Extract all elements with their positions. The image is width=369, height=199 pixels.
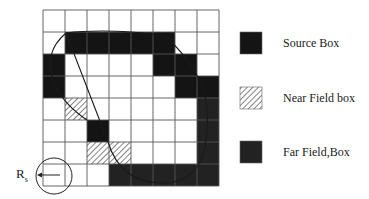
- source-box-cell: [43, 54, 65, 76]
- empty-cell: [43, 142, 65, 164]
- radius-label-main: R: [16, 166, 25, 181]
- empty-cell: [87, 164, 109, 186]
- near-field-cell: [87, 142, 109, 164]
- far-field-cell: [197, 164, 219, 186]
- empty-cell: [109, 10, 131, 32]
- source-box-cell: [197, 76, 219, 98]
- legend-near-field-swatch: [240, 87, 262, 109]
- source-box-cell: [175, 54, 197, 76]
- empty-cell: [43, 10, 65, 32]
- empty-cell: [131, 76, 153, 98]
- source-box-cell: [153, 54, 175, 76]
- source-box-cell: [109, 32, 131, 54]
- legend-swatches: [240, 32, 262, 163]
- empty-cell: [65, 10, 87, 32]
- far-field-cell: [197, 120, 219, 142]
- empty-cell: [87, 54, 109, 76]
- source-box-cell: [87, 120, 109, 142]
- empty-cell: [175, 10, 197, 32]
- source-box-cell: [131, 32, 153, 54]
- empty-cell: [153, 10, 175, 32]
- empty-cell: [109, 76, 131, 98]
- legend-label-source: Source Box: [283, 36, 339, 50]
- diagram-stage: Source Box Near Field box Far Field,Box …: [0, 0, 369, 199]
- legend-source-swatch: [240, 32, 262, 54]
- empty-cell: [43, 120, 65, 142]
- far-field-cell: [109, 164, 131, 186]
- empty-cell: [175, 98, 197, 120]
- legend-label-far-field: Far Field,Box: [283, 145, 350, 159]
- empty-cell: [43, 32, 65, 54]
- source-box-cell: [65, 32, 87, 54]
- source-box-cell: [43, 76, 65, 98]
- empty-cell: [131, 10, 153, 32]
- empty-cell: [109, 54, 131, 76]
- source-box-cell: [175, 76, 197, 98]
- empty-cell: [153, 76, 175, 98]
- empty-cell: [153, 98, 175, 120]
- far-field-cell: [175, 164, 197, 186]
- legend-label-near-field: Near Field box: [283, 91, 355, 105]
- empty-cell: [109, 120, 131, 142]
- empty-cell: [153, 142, 175, 164]
- empty-cell: [175, 120, 197, 142]
- empty-cell: [131, 142, 153, 164]
- source-box-cell: [87, 32, 109, 54]
- empty-cell: [197, 10, 219, 32]
- empty-cell: [43, 98, 65, 120]
- radius-label-sub: s: [25, 175, 28, 184]
- empty-cell: [131, 54, 153, 76]
- empty-cell: [197, 32, 219, 54]
- empty-cell: [87, 10, 109, 32]
- empty-cell: [153, 120, 175, 142]
- empty-cell: [175, 142, 197, 164]
- empty-cell: [65, 142, 87, 164]
- legend-far-field-swatch: [240, 141, 262, 163]
- arrow-head-icon: [37, 173, 42, 178]
- empty-cell: [109, 98, 131, 120]
- empty-cell: [175, 32, 197, 54]
- empty-cell: [131, 98, 153, 120]
- empty-cell: [65, 120, 87, 142]
- empty-cell: [197, 54, 219, 76]
- empty-cell: [65, 164, 87, 186]
- empty-cell: [65, 54, 87, 76]
- empty-cell: [131, 120, 153, 142]
- radius-label: Rs: [16, 167, 28, 187]
- near-field-cell: [65, 98, 87, 120]
- far-field-cell: [131, 164, 153, 186]
